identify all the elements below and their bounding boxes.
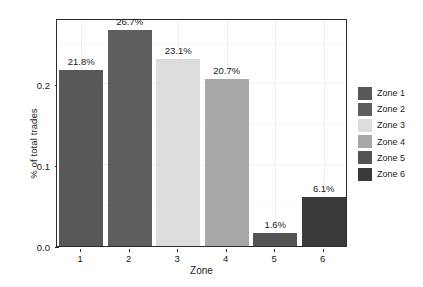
plot-inner: 21.8%26.7%23.1%20.7%1.6%6.1%: [57, 20, 346, 246]
legend-label: Zone 6: [377, 169, 405, 179]
legend-swatch-icon: [358, 168, 372, 181]
x-tick-mark: [323, 249, 324, 252]
bar-value-label: 26.7%: [116, 16, 143, 27]
legend-label: Zone 2: [377, 104, 405, 114]
y-tick-label: 0.2: [24, 80, 55, 91]
legend-swatch-icon: [358, 103, 372, 116]
legend-item-2[interactable]: Zone 2: [358, 101, 422, 117]
x-tick-label: 5: [272, 253, 277, 264]
bar-chart-figure: % of total trades 0.00.10.2 21.8%26.7%23…: [0, 0, 423, 287]
legend-item-5[interactable]: Zone 5: [358, 150, 422, 166]
x-tick-mark: [226, 249, 227, 252]
x-tick-mark: [80, 249, 81, 252]
legend-label: Zone 4: [377, 137, 405, 147]
legend-swatch-icon: [358, 87, 372, 100]
bar-value-label: 20.7%: [213, 65, 240, 76]
plot-area: 21.8%26.7%23.1%20.7%1.6%6.1%: [56, 19, 347, 247]
y-axis-tick-labels: 0.00.10.2: [24, 19, 55, 247]
bar-zone-3: 23.1%: [156, 59, 200, 246]
legend-label: Zone 3: [377, 120, 405, 130]
legend-label: Zone 1: [377, 88, 405, 98]
x-axis-title: Zone: [56, 265, 347, 276]
bar-value-label: 23.1%: [165, 45, 192, 56]
y-tick-mark: [55, 247, 59, 248]
x-tick-label: 2: [126, 253, 131, 264]
bar-value-label: 6.1%: [313, 183, 335, 194]
x-axis-tick-labels: 123456: [56, 249, 347, 263]
legend-swatch-icon: [358, 151, 372, 164]
gridline-horizontal-minor: [57, 43, 346, 44]
legend: Zone 1Zone 2Zone 3Zone 4Zone 5Zone 6: [358, 85, 422, 182]
legend-item-4[interactable]: Zone 4: [358, 134, 422, 150]
bar-value-label: 1.6%: [264, 219, 286, 230]
legend-item-1[interactable]: Zone 1: [358, 85, 422, 101]
legend-swatch-icon: [358, 119, 372, 132]
x-tick-mark: [274, 249, 275, 252]
bar-zone-1: 21.8%: [59, 70, 103, 246]
gridline-vertical: [275, 20, 276, 246]
x-tick-label: 3: [175, 253, 180, 264]
legend-label: Zone 5: [377, 153, 405, 163]
legend-item-6[interactable]: Zone 6: [358, 166, 422, 182]
bar-zone-5: 1.6%: [253, 233, 297, 246]
bar-value-label: 21.8%: [68, 56, 95, 67]
x-tick-label: 1: [78, 253, 83, 264]
bar-zone-6: 6.1%: [302, 197, 346, 246]
bar-zone-2: 26.7%: [108, 30, 152, 246]
x-tick-label: 6: [320, 253, 325, 264]
x-tick-label: 4: [223, 253, 228, 264]
x-tick-mark: [177, 249, 178, 252]
y-tick-label: 0.0: [24, 242, 55, 253]
legend-item-3[interactable]: Zone 3: [358, 117, 422, 133]
bar-zone-4: 20.7%: [205, 79, 249, 246]
y-tick-label: 0.1: [24, 161, 55, 172]
x-tick-mark: [129, 249, 130, 252]
legend-swatch-icon: [358, 135, 372, 148]
